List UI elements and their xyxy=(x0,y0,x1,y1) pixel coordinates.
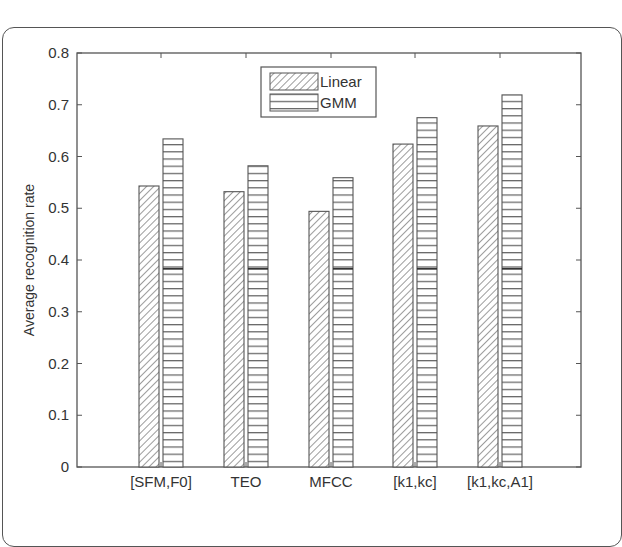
y-tick-label: 0.4 xyxy=(48,251,69,268)
bar-gmm-4 xyxy=(502,95,522,467)
legend-swatch-gmm xyxy=(270,94,318,111)
x-tick-label: [k1,kc] xyxy=(393,473,436,490)
y-tick-label: 0.1 xyxy=(48,406,69,423)
bar-linear-3 xyxy=(393,144,413,467)
bar-linear-1 xyxy=(224,192,244,467)
y-tick-label: 0.3 xyxy=(48,303,69,320)
x-tick-label: MFCC xyxy=(309,473,352,490)
y-tick-label: 0.2 xyxy=(48,355,69,372)
y-tick-label: 0.5 xyxy=(48,199,69,216)
bar-gmm-2 xyxy=(333,178,353,467)
legend-swatch-linear xyxy=(270,73,318,90)
legend-label-linear: Linear xyxy=(320,73,362,90)
y-tick-label: 0.8 xyxy=(48,44,69,61)
x-axis: [SFM,F0]TEOMFCC[k1,kc][k1,kc,A1] xyxy=(130,53,533,490)
bar-linear-4 xyxy=(478,126,498,467)
bar-gmm-3 xyxy=(417,118,437,467)
y-tick-label: 0.7 xyxy=(48,96,69,113)
bar-linear-0 xyxy=(139,186,159,467)
y-tick-label: 0 xyxy=(61,458,69,475)
bar-gmm-1 xyxy=(248,166,268,467)
legend-label-gmm: GMM xyxy=(320,94,357,111)
y-axis-title: Average recognition rate xyxy=(21,184,37,336)
bar-linear-2 xyxy=(309,211,329,467)
x-tick-label: TEO xyxy=(231,473,262,490)
bars xyxy=(139,95,522,467)
bar-gmm-0 xyxy=(163,139,183,467)
legend: Linear GMM xyxy=(261,67,376,117)
x-tick-label: [k1,kc,A1] xyxy=(467,473,533,490)
x-tick-label: [SFM,F0] xyxy=(130,473,192,490)
y-tick-label: 0.6 xyxy=(48,148,69,165)
